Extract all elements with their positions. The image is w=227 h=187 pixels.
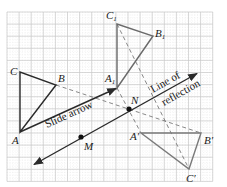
label-aprime: A′ xyxy=(129,130,140,142)
label-a1: A1 xyxy=(104,72,115,86)
label-bprime: B′ xyxy=(204,134,214,146)
label-b1: B1 xyxy=(155,27,165,41)
label-b: B xyxy=(58,72,65,84)
slide-arrow-label: Slide arrow xyxy=(43,98,94,130)
label-m: M xyxy=(83,140,94,152)
glide-reflection-diagram: C B A C1 B1 A1 A′ B′ C′ M N Slide arrow … xyxy=(0,0,227,187)
label-n: N xyxy=(130,94,139,106)
label-a: A xyxy=(11,134,19,146)
point-n xyxy=(126,106,131,111)
label-c: C xyxy=(10,65,18,77)
label-cprime: C′ xyxy=(186,172,196,184)
label-c1: C1 xyxy=(106,9,117,23)
point-m xyxy=(78,134,83,139)
